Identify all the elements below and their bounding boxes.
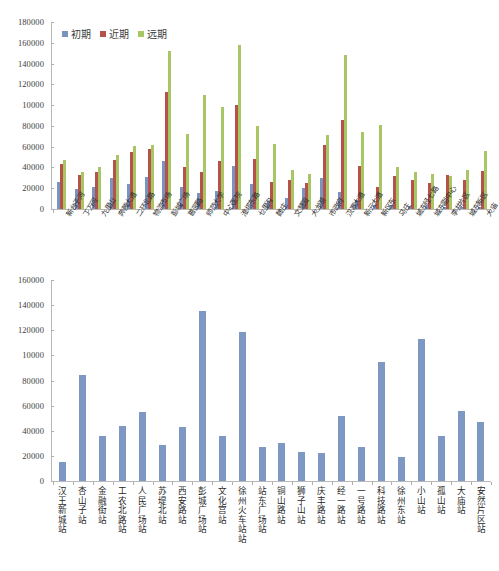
x-axis-label: 大庙站 [456, 487, 467, 516]
bar [378, 362, 385, 481]
x-axis-tick-mark [351, 210, 352, 213]
x-axis-tick-mark [451, 482, 452, 485]
y-axis-tick-label: 40000 [22, 426, 44, 436]
x-axis-tick-mark [176, 210, 177, 213]
bar-group [133, 280, 153, 481]
bar-远期 [326, 135, 329, 209]
x-axis-label: 一号路站 [356, 487, 367, 525]
x-axis-label: 铜山路站 [276, 487, 287, 525]
bar-group [53, 22, 71, 209]
x-axis-tick-mark [211, 210, 212, 213]
bar-group [176, 22, 194, 209]
bar-远期 [344, 55, 347, 209]
x-axis-tick-mark [292, 482, 293, 485]
x-axis-label: 小山站 [416, 487, 427, 516]
y-axis-tick-mark [51, 381, 54, 382]
x-axis-labels-bottom: 汉王新城站杏山子站金融街站工农北路站人民广场站苏堤北站西安路站彭城广场站文化宫站… [53, 487, 491, 571]
x-axis-tick-mark [71, 210, 72, 213]
y-axis-tick-mark [51, 22, 54, 23]
bar-group [312, 280, 332, 481]
x-axis-label: 彭城广场站 [197, 487, 208, 535]
bar-远期 [238, 45, 241, 209]
bar [219, 436, 226, 481]
bar [318, 453, 325, 481]
x-axis-label: 庆丰路站 [316, 487, 327, 525]
x-axis-tick-mark [53, 210, 54, 213]
x-axis-tick-mark [332, 482, 333, 485]
x-axis-tick-mark [252, 482, 253, 485]
bar-chart-bottom: 0200004000060000800001000012000014000016… [0, 272, 495, 571]
bar-group [386, 22, 404, 209]
plot-area-bottom [53, 280, 491, 481]
x-axis-tick-mark [193, 210, 194, 213]
x-axis-tick-mark [212, 482, 213, 485]
x-axis-label: 西安路站 [177, 487, 188, 525]
x-axis-label: 人民广场站 [137, 487, 148, 535]
x-axis-tick-mark [123, 210, 124, 213]
y-axis-tick-mark [51, 167, 54, 168]
y-axis-line-top [51, 22, 52, 210]
y-axis-tick-mark [51, 355, 54, 356]
bar [119, 426, 126, 481]
x-axis-tick-mark [272, 482, 273, 485]
x-axis-label: 徐州东站 [396, 487, 407, 525]
bar-group [451, 280, 471, 481]
bar-group [212, 280, 232, 481]
x-axis-tick-mark [106, 210, 107, 213]
y-axis-tick-mark [51, 305, 54, 306]
x-axis-labels-top: 新台子河丁万河九里山奔腾大道二环北路物流市场彭城广场蔷园路师范大学中心医院淮塔东… [53, 211, 491, 271]
x-axis-tick-mark [53, 482, 54, 485]
x-axis-tick-mark [491, 482, 492, 485]
y-axis-tick-mark [51, 84, 54, 85]
bar-group [272, 280, 292, 481]
bar [418, 339, 425, 481]
x-axis-tick-mark [456, 210, 457, 213]
x-axis-tick-mark [73, 482, 74, 485]
y-axis-tick-label: 0 [40, 476, 44, 486]
y-axis-tick-mark [51, 188, 54, 189]
y-axis-tick-mark [51, 456, 54, 457]
x-axis-tick-mark [263, 210, 264, 213]
x-axis-label: 安然片区站 [476, 487, 487, 535]
bar-group [473, 22, 491, 209]
bar-group [158, 22, 176, 209]
bar-远期 [63, 160, 66, 209]
y-axis-tick-mark [51, 105, 54, 106]
y-axis-tick-mark [51, 43, 54, 44]
bar-group [298, 22, 316, 209]
x-axis-tick-mark [333, 210, 334, 213]
bar-group [88, 22, 106, 209]
bar-group [153, 280, 173, 481]
x-axis-tick-mark [133, 482, 134, 485]
bar [179, 427, 186, 481]
bar [477, 422, 484, 481]
y-axis-tick-label: 180000 [18, 17, 44, 27]
y-axis-tick-label: 140000 [18, 300, 44, 310]
bar-group [281, 22, 299, 209]
x-axis-tick-mark [316, 210, 317, 213]
y-axis-tick-label: 10000 [22, 350, 44, 360]
bar-group [141, 22, 159, 209]
plot-area-top [53, 22, 491, 209]
y-axis-tick-label: 140000 [18, 59, 44, 69]
x-axis-tick-mark [228, 210, 229, 213]
x-axis-tick-mark [352, 482, 353, 485]
y-axis-tick-label: 80000 [22, 121, 44, 131]
bar [259, 447, 266, 481]
bar [398, 457, 405, 481]
bar [458, 411, 465, 481]
bar-group [123, 22, 141, 209]
bar-group [193, 22, 211, 209]
y-axis-tick-label: 160000 [18, 275, 44, 285]
y-axis-tick-mark [51, 64, 54, 65]
y-axis-tick-label: 0 [40, 204, 44, 214]
bar-group [351, 22, 369, 209]
bar-group [421, 22, 439, 209]
y-axis-tick-label: 20000 [22, 451, 44, 461]
x-axis-tick-mark [88, 210, 89, 213]
y-axis-bottom: 0200004000060000800001000012000014000016… [0, 272, 52, 571]
bar [298, 452, 305, 481]
bar-group [411, 280, 431, 481]
x-axis-tick-mark [438, 210, 439, 213]
bar [338, 416, 345, 481]
